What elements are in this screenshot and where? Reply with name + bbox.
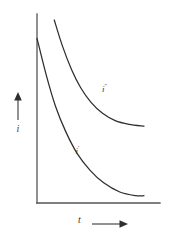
x-axis-arrow-icon xyxy=(90,218,132,230)
x-arrow-head xyxy=(120,220,129,228)
x-axis-label-group: t xyxy=(78,213,136,231)
y-axis-label: i xyxy=(8,124,28,134)
curve-label-lower: i′ xyxy=(76,147,80,156)
x-axis-label: t xyxy=(78,215,81,225)
curve-label-upper-mark: ′′ xyxy=(105,83,108,89)
y-arrow-head xyxy=(14,92,22,101)
curve-label-upper: i′′ xyxy=(102,85,107,94)
curve-label-lower-mark: ′ xyxy=(78,145,79,151)
figure-container: i′′ i′ i t xyxy=(0,0,179,239)
curve-lower-path xyxy=(37,38,144,196)
y-axis-label-group: i xyxy=(8,92,28,140)
curve-upper-path xyxy=(54,20,144,126)
